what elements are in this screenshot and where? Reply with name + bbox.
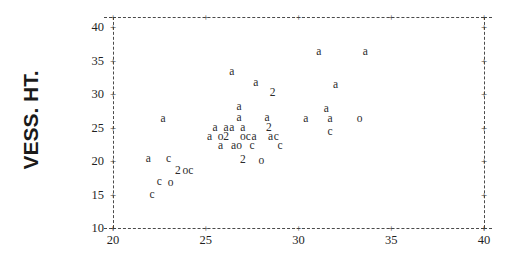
x-tick-mark: + [201,223,211,234]
y-tick-label: 15 [92,188,105,201]
x-tick-mark-top: + [479,12,489,23]
y-tick-label: 10 [92,222,105,235]
y-tick-label: 40 [92,21,105,34]
y-tick-mark-right: + [479,89,489,100]
y-tick-mark: + [108,55,118,66]
data-point: o [236,140,242,152]
x-tick-label: 20 [107,234,120,247]
y-tick-mark-right: + [479,156,489,167]
y-tick-mark: + [108,189,118,200]
x-tick-mark-top: + [201,12,211,23]
data-point: a [253,78,258,90]
data-point: o [182,165,188,177]
y-tick-mark-right: + [479,189,489,200]
data-point: c [250,140,255,152]
y-tick-mark: + [108,22,118,33]
x-tick-label: 40 [478,234,491,247]
data-point: c [327,126,332,138]
x-tick-label: 30 [292,234,305,247]
x-tick-label: 35 [385,234,398,247]
plot-area: ++++++++++++++++++++++++ aaaaa2aaaaaaaoa… [113,17,484,228]
data-point: c [149,189,154,201]
data-point: a [327,114,332,126]
data-point: a [268,131,273,143]
data-point: a [207,131,212,143]
y-tick-mark: + [108,122,118,133]
data-point: a [333,79,338,91]
x-tick-mark: + [479,223,489,234]
data-point: a [363,46,368,58]
x-tick-label: 25 [200,234,213,247]
scatter-plot-screenshot: VESS. HT. ++++++++++++++++++++++++ aaaaa… [0,0,518,258]
y-tick-label: 20 [92,155,105,168]
data-point: o [357,114,363,126]
x-tick-mark: + [386,223,396,234]
y-axis-title-container: VESS. HT. [0,0,60,258]
x-tick-mark-top: + [294,12,304,23]
data-point: 2 [223,131,229,143]
y-tick-mark-right: + [479,122,489,133]
data-point: a [316,46,321,58]
data-point: c [157,177,162,189]
y-tick-mark: + [108,156,118,167]
y-tick-mark-right: + [479,22,489,33]
x-tick-mark-top: + [108,12,118,23]
y-axis-title: VESS. HT. [19,45,43,195]
y-tick-mark-right: + [479,55,489,66]
data-point: c [166,153,171,165]
x-tick-mark: + [108,223,118,234]
data-point: c [188,165,193,177]
y-tick-label: 25 [92,121,105,134]
x-tick-mark: + [294,223,304,234]
data-point: o [259,155,265,167]
data-point: a [218,140,223,152]
y-tick-label: 35 [92,54,105,67]
data-point: a [303,114,308,126]
data-point: a [146,153,151,165]
data-point: 2 [270,88,276,100]
data-point: 2 [175,165,181,177]
data-point: o [168,177,174,189]
data-point: a [229,122,234,134]
data-point: a [161,113,166,125]
data-point: 2 [240,154,246,166]
data-point: a [229,66,234,78]
y-tick-mark: + [108,89,118,100]
data-point: c [277,140,282,152]
y-tick-label: 30 [92,88,105,101]
x-tick-mark-top: + [386,12,396,23]
